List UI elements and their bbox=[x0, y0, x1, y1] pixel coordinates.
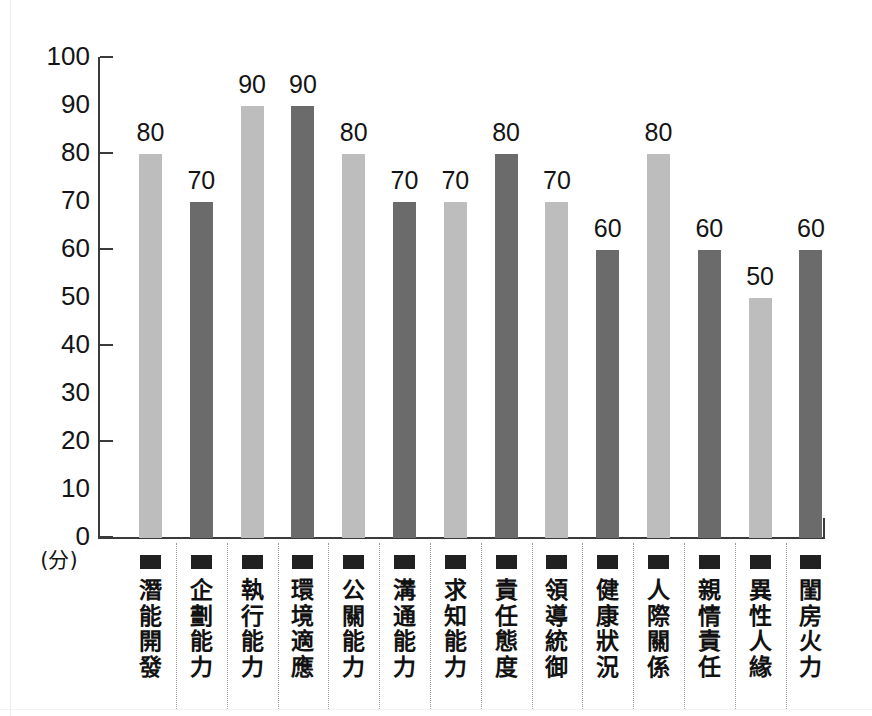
bar-value-label: 80 bbox=[629, 120, 689, 145]
legend-square-icon bbox=[394, 555, 415, 569]
y-axis-tick-label: 10 bbox=[32, 475, 90, 501]
category-label: 異 性 人 緣 bbox=[749, 578, 772, 680]
legend-square-icon bbox=[292, 555, 313, 569]
bar-value-label: 80 bbox=[476, 120, 536, 145]
legend-square-icon bbox=[445, 555, 466, 569]
y-axis-tick bbox=[100, 56, 113, 58]
category-label-column: 親 情 責 任 bbox=[684, 545, 734, 710]
y-axis-tick-label-slot: 70 bbox=[28, 187, 90, 213]
bar-value-label: 60 bbox=[679, 216, 739, 241]
legend-square-icon bbox=[140, 555, 161, 569]
category-label-column: 責 任 態 度 bbox=[481, 545, 531, 710]
bar bbox=[596, 250, 619, 538]
legend-square-icon bbox=[800, 555, 821, 569]
legend-square-icon bbox=[242, 555, 263, 569]
category-label: 閨 房 火 力 bbox=[799, 578, 822, 680]
y-axis-tick-label-slot: 80 bbox=[28, 139, 90, 165]
bar-value-label: 50 bbox=[730, 264, 790, 289]
y-axis-tick-label-slot: 90 bbox=[28, 91, 90, 117]
category-label-column: 溝 通 能 力 bbox=[380, 545, 430, 710]
category-label: 人 際 關 係 bbox=[647, 578, 670, 680]
y-axis-tick bbox=[100, 152, 113, 154]
bar bbox=[698, 250, 721, 538]
y-axis-tick-label: 20 bbox=[32, 427, 90, 453]
category-label: 企 劃 能 力 bbox=[190, 578, 213, 680]
category-label-column: 人 際 關 係 bbox=[634, 545, 684, 710]
category-label: 健 康 狀 況 bbox=[596, 578, 619, 680]
legend-square-icon bbox=[648, 555, 669, 569]
category-label-column: 企 劃 能 力 bbox=[176, 545, 226, 710]
bar bbox=[393, 202, 416, 538]
bar bbox=[342, 154, 365, 538]
legend-square-icon bbox=[496, 555, 517, 569]
y-axis-tick-label-slot: 10 bbox=[28, 475, 90, 501]
y-axis-tick-label-slot: 30 bbox=[28, 379, 90, 405]
category-label: 求 知 能 力 bbox=[444, 578, 467, 680]
bar bbox=[545, 202, 568, 538]
y-axis-tick-label: 80 bbox=[32, 139, 90, 165]
bar-value-label: 70 bbox=[527, 168, 587, 193]
legend-square-icon bbox=[699, 555, 720, 569]
category-label: 親 情 責 任 bbox=[698, 578, 721, 680]
category-label: 責 任 態 度 bbox=[495, 578, 518, 680]
bar bbox=[444, 202, 467, 538]
category-label: 溝 通 能 力 bbox=[393, 578, 416, 680]
y-axis-tick bbox=[100, 536, 113, 538]
legend-square-icon bbox=[597, 555, 618, 569]
y-axis-tick-label-slot: 0 bbox=[28, 523, 90, 549]
category-label-column: 健 康 狀 況 bbox=[583, 545, 633, 710]
category-label-column: 環 境 適 應 bbox=[278, 545, 328, 710]
category-label-column: 求 知 能 力 bbox=[430, 545, 480, 710]
category-label-column: 領 導 統 御 bbox=[532, 545, 582, 710]
y-axis-tick-label-slot: 60 bbox=[28, 235, 90, 261]
y-axis-tick-label: 50 bbox=[32, 283, 90, 309]
category-label-column: 閨 房 火 力 bbox=[786, 545, 836, 710]
bar bbox=[749, 298, 772, 538]
y-axis-tick-label: 0 bbox=[32, 523, 90, 549]
bar bbox=[799, 250, 822, 538]
bar bbox=[139, 154, 162, 538]
bar bbox=[647, 154, 670, 538]
x-axis-end-cap bbox=[823, 518, 825, 539]
bar bbox=[495, 154, 518, 538]
bar-value-label: 80 bbox=[121, 120, 181, 145]
category-label: 執 行 能 力 bbox=[241, 578, 264, 680]
bar-value-label: 70 bbox=[425, 168, 485, 193]
bar-chart-plot: 1009080706050403020100 (分) 8070909080707… bbox=[0, 0, 872, 716]
y-axis-tick-label-slot: 20 bbox=[28, 427, 90, 453]
y-axis-tick-label: 30 bbox=[32, 379, 90, 405]
y-axis-tick-label: 40 bbox=[32, 331, 90, 357]
y-axis-tick-label-slot: 100 bbox=[28, 43, 90, 69]
y-axis-tick bbox=[100, 344, 113, 346]
bar bbox=[190, 202, 213, 538]
category-label-column: 潛 能 開 發 bbox=[126, 545, 176, 710]
y-axis-tick-label: 100 bbox=[32, 43, 90, 69]
category-label-column: 公 關 能 力 bbox=[329, 545, 379, 710]
category-label: 環 境 適 應 bbox=[291, 578, 314, 680]
y-axis-line bbox=[98, 57, 100, 539]
bar-value-label: 60 bbox=[578, 216, 638, 241]
category-label-column: 執 行 能 力 bbox=[227, 545, 277, 710]
category-label: 領 導 統 御 bbox=[545, 578, 568, 680]
bar-value-label: 70 bbox=[171, 168, 231, 193]
y-axis-tick bbox=[100, 440, 113, 442]
bar bbox=[291, 106, 314, 538]
y-axis-tick-label-slot: 50 bbox=[28, 283, 90, 309]
y-axis-tick-label: 60 bbox=[32, 235, 90, 261]
y-axis-unit-label: (分) bbox=[26, 548, 92, 572]
legend-square-icon bbox=[191, 555, 212, 569]
legend-square-icon bbox=[343, 555, 364, 569]
category-label: 潛 能 開 發 bbox=[139, 578, 162, 680]
y-axis-tick-label: 70 bbox=[32, 187, 90, 213]
chart-page: 1009080706050403020100 (分) 8070909080707… bbox=[0, 0, 872, 716]
bar-value-label: 60 bbox=[781, 216, 841, 241]
y-axis-tick bbox=[100, 248, 113, 250]
y-axis-tick-label: 90 bbox=[32, 91, 90, 117]
legend-square-icon bbox=[546, 555, 567, 569]
y-axis-tick-label-slot: 40 bbox=[28, 331, 90, 357]
legend-square-icon bbox=[750, 555, 771, 569]
category-label-column: 異 性 人 緣 bbox=[735, 545, 785, 710]
category-label: 公 關 能 力 bbox=[342, 578, 365, 680]
bar-value-label: 80 bbox=[324, 120, 384, 145]
bar bbox=[241, 106, 264, 538]
